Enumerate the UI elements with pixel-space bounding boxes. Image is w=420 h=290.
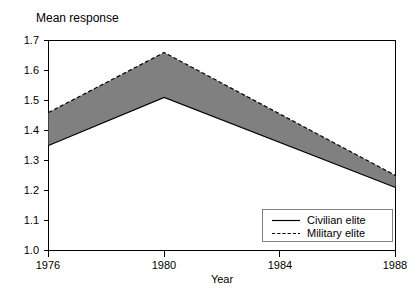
y-tick-label-1-1: 1.1 (24, 214, 39, 226)
chart-container: Mean response 1.0 1.1 1.2 1.3 1.4 1.5 1.… (0, 0, 420, 290)
x-axis-ticks (49, 251, 396, 257)
y-tick-label-1-5: 1.5 (24, 94, 39, 106)
x-tick-label-1980: 1980 (152, 259, 176, 271)
y-tick-label-1-3: 1.3 (24, 154, 39, 166)
y-tick-label-1-7: 1.7 (24, 34, 39, 46)
x-tick-label-1984: 1984 (268, 259, 292, 271)
legend-label-military-elite: Military elite (307, 227, 365, 239)
mean-response-area-chart: Mean response 1.0 1.1 1.2 1.3 1.4 1.5 1.… (0, 0, 420, 290)
legend: Civilian elite Military elite (263, 210, 393, 242)
legend-label-civilian-elite: Civilian elite (307, 214, 366, 226)
x-tick-label-1976: 1976 (36, 259, 60, 271)
x-tick-label-1988: 1988 (383, 259, 407, 271)
x-axis-title: Year (211, 273, 234, 285)
page-title: Mean response (36, 11, 119, 25)
y-axis-ticks (44, 41, 49, 251)
y-tick-label-1-2: 1.2 (24, 184, 39, 196)
y-axis-labels: 1.0 1.1 1.2 1.3 1.4 1.5 1.6 1.7 (24, 34, 39, 256)
x-axis-labels: 1976 1980 1984 1988 (36, 259, 407, 271)
y-tick-label-1-6: 1.6 (24, 64, 39, 76)
y-tick-label-1-4: 1.4 (24, 124, 39, 136)
y-tick-label-1-0: 1.0 (24, 244, 39, 256)
